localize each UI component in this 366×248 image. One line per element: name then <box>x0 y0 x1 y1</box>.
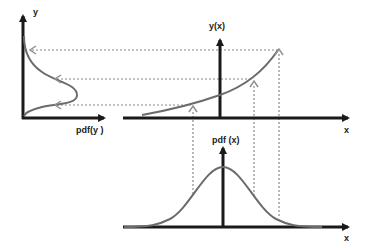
left-panel-pdf-y <box>22 16 104 119</box>
middle-y-axis-label: y(x) <box>209 22 225 31</box>
middle-panel-y-of-x <box>123 40 348 119</box>
diagram-canvas <box>0 0 366 248</box>
left-y-axis-label: y <box>33 8 38 17</box>
bottom-y-axis-label: pdf (x) <box>212 136 240 145</box>
bottom-panel-pdf-x <box>123 148 348 228</box>
arrowhead-up-1 <box>189 106 197 112</box>
horizontal-mapping-lines <box>32 50 278 105</box>
left-x-axis-label: pdf(y ) <box>76 126 104 135</box>
middle-x-axis-label: x <box>344 126 349 135</box>
bottom-x-axis-label: x <box>344 234 349 243</box>
